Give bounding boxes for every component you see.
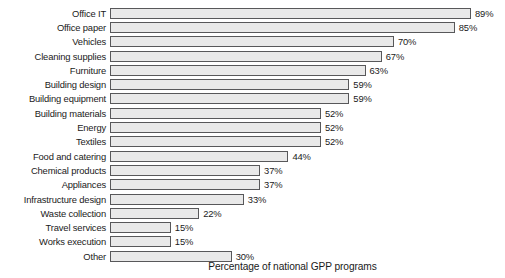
bar-row: Appliances37% xyxy=(0,178,505,192)
bar xyxy=(110,179,260,190)
bar xyxy=(110,136,321,147)
horizontal-bar-chart: Office IT89%Office paper85%Vehicles70%Cl… xyxy=(0,0,505,278)
bar-value-label: 44% xyxy=(292,151,310,162)
bar-row: Vehicles70% xyxy=(0,35,505,49)
bar-value-label: 15% xyxy=(175,236,193,247)
bar-value-label: 59% xyxy=(353,79,371,90)
bar-value-label: 52% xyxy=(325,108,343,119)
bar-track: 15% xyxy=(110,222,505,233)
bar-value-label: 70% xyxy=(398,36,416,47)
bar-value-label: 59% xyxy=(353,93,371,104)
bar-row: Office paper85% xyxy=(0,20,505,34)
bar xyxy=(110,108,321,119)
bar-row: Travel services15% xyxy=(0,220,505,234)
category-label: Vehicles xyxy=(0,36,106,47)
bar-value-label: 52% xyxy=(325,122,343,133)
bar-row: Works execution15% xyxy=(0,235,505,249)
bar-track: 37% xyxy=(110,165,505,176)
bar-row: Furniture63% xyxy=(0,63,505,77)
bar xyxy=(110,79,349,90)
bar-row: Chemical products37% xyxy=(0,163,505,177)
bar-row: Building design59% xyxy=(0,77,505,91)
category-label: Building design xyxy=(0,79,106,90)
bar xyxy=(110,93,349,104)
bar-row: Energy52% xyxy=(0,120,505,134)
bar-value-label: 37% xyxy=(264,179,282,190)
category-label: Cleaning supplies xyxy=(0,51,106,62)
bar-value-label: 33% xyxy=(248,194,266,205)
bar xyxy=(110,208,199,219)
bar-row: Infrastructure design33% xyxy=(0,192,505,206)
bar xyxy=(110,236,171,247)
bar-value-label: 52% xyxy=(325,136,343,147)
category-label: Chemical products xyxy=(0,165,106,176)
bar xyxy=(110,122,321,133)
bar-track: 33% xyxy=(110,194,505,205)
bar-track: 15% xyxy=(110,236,505,247)
bar-track: 52% xyxy=(110,136,505,147)
category-label: Office IT xyxy=(0,8,106,19)
category-label: Building materials xyxy=(0,108,106,119)
bar xyxy=(110,36,394,47)
bar-value-label: 89% xyxy=(475,8,493,19)
category-label: Food and catering xyxy=(0,151,106,162)
bar-track: 63% xyxy=(110,65,505,76)
bar xyxy=(110,22,455,33)
bar-track: 44% xyxy=(110,151,505,162)
bar-track: 67% xyxy=(110,51,505,62)
category-label: Energy xyxy=(0,122,106,133)
bar xyxy=(110,165,260,176)
bar-track: 85% xyxy=(110,22,505,33)
bar xyxy=(110,151,288,162)
x-axis-label: Percentage of national GPP programs xyxy=(0,261,505,272)
chart-plot-area: Office IT89%Office paper85%Vehicles70%Cl… xyxy=(0,6,505,263)
bar-track: 89% xyxy=(110,8,505,19)
bar xyxy=(110,8,471,19)
bar xyxy=(110,51,382,62)
category-label: Travel services xyxy=(0,222,106,233)
bar-row: Food and catering44% xyxy=(0,149,505,163)
bar-track: 59% xyxy=(110,93,505,104)
bar-track: 70% xyxy=(110,36,505,47)
bar-value-label: 67% xyxy=(386,51,404,62)
bar-row: Building equipment59% xyxy=(0,92,505,106)
bar-row: Building materials52% xyxy=(0,106,505,120)
bar-value-label: 37% xyxy=(264,165,282,176)
bar xyxy=(110,222,171,233)
bar-track: 37% xyxy=(110,179,505,190)
category-label: Appliances xyxy=(0,179,106,190)
category-label: Building equipment xyxy=(0,93,106,104)
bar-row: Textiles52% xyxy=(0,135,505,149)
bar-row: Office IT89% xyxy=(0,6,505,20)
category-label: Furniture xyxy=(0,65,106,76)
bar-value-label: 15% xyxy=(175,222,193,233)
bar-row: Cleaning supplies67% xyxy=(0,49,505,63)
bar-track: 22% xyxy=(110,208,505,219)
category-label: Office paper xyxy=(0,22,106,33)
category-label: Works execution xyxy=(0,236,106,247)
bar xyxy=(110,194,244,205)
bar-track: 52% xyxy=(110,108,505,119)
bar-value-label: 22% xyxy=(203,208,221,219)
bar-value-label: 63% xyxy=(370,65,388,76)
bar-track: 52% xyxy=(110,122,505,133)
bar-value-label: 85% xyxy=(459,22,477,33)
bar-track: 59% xyxy=(110,79,505,90)
category-label: Textiles xyxy=(0,136,106,147)
bar xyxy=(110,65,366,76)
bar-row: Waste collection22% xyxy=(0,206,505,220)
category-label: Infrastructure design xyxy=(0,194,106,205)
category-label: Waste collection xyxy=(0,208,106,219)
